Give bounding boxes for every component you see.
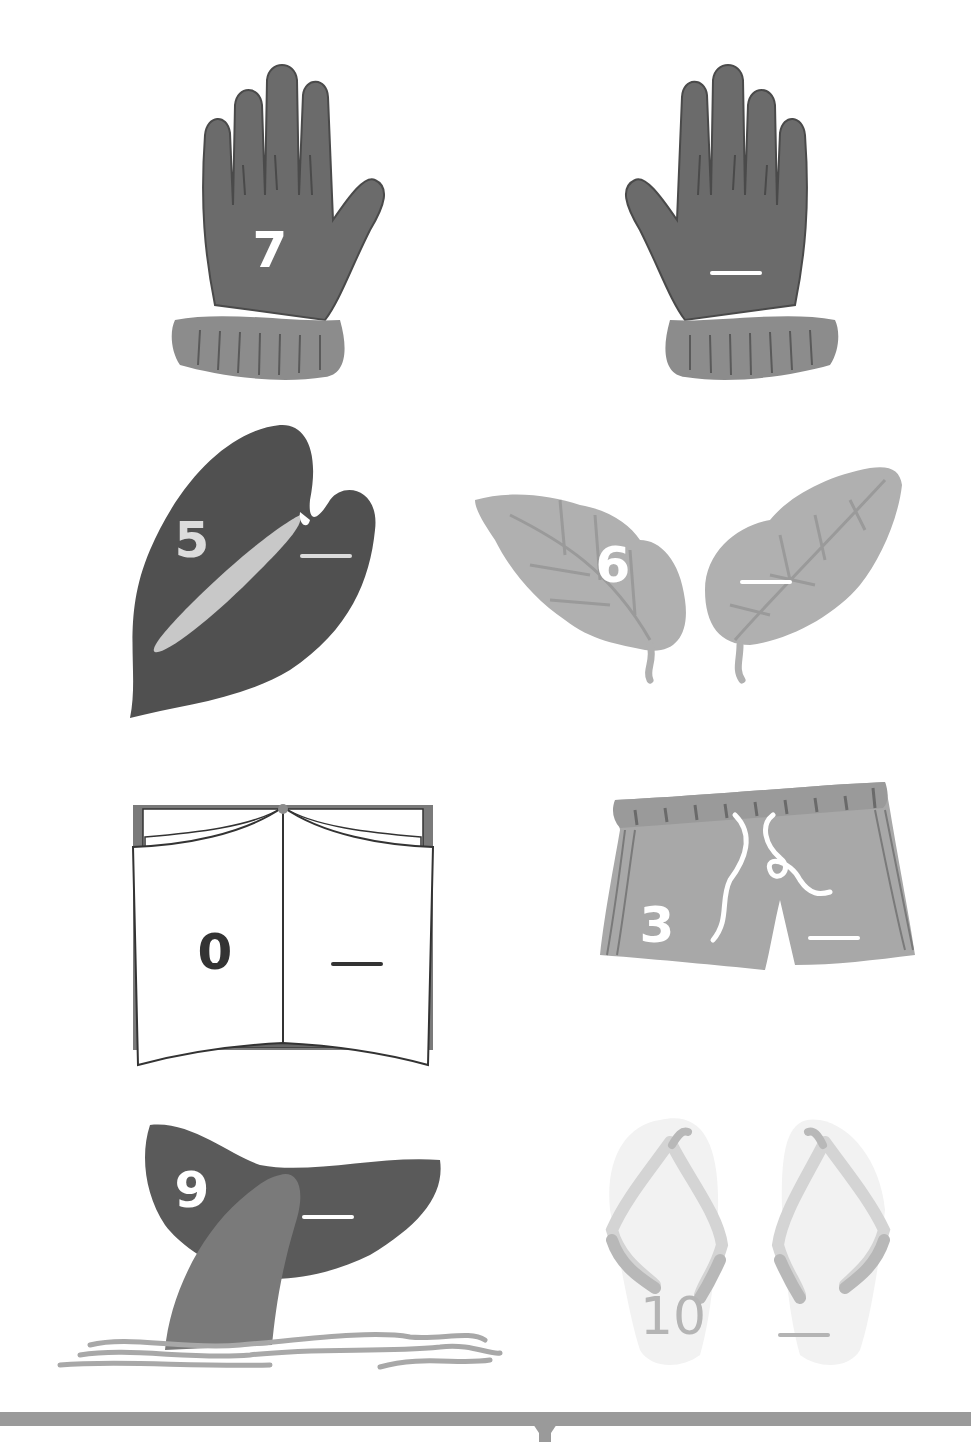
given-number: 3 bbox=[637, 900, 677, 950]
bottom-divider-bar bbox=[0, 1412, 971, 1426]
whale-tail-item: 9 bbox=[40, 1115, 500, 1375]
given-number: 0 bbox=[195, 927, 235, 977]
given-number: 9 bbox=[172, 1165, 212, 1215]
left-glove-icon bbox=[165, 55, 405, 385]
given-number: 5 bbox=[172, 515, 212, 565]
given-number: 6 bbox=[593, 540, 633, 590]
answer-blank[interactable] bbox=[778, 1333, 830, 1337]
shorts-item: 3 bbox=[595, 770, 925, 970]
answer-blank[interactable] bbox=[808, 936, 860, 940]
anthurium-leaf-icon bbox=[120, 420, 380, 720]
answer-blank[interactable] bbox=[331, 962, 383, 966]
leaf-pair-icon bbox=[470, 440, 910, 680]
whale-tail-icon bbox=[40, 1115, 500, 1375]
answer-blank[interactable] bbox=[300, 554, 352, 558]
glove-pair-item: 7 bbox=[165, 55, 845, 385]
flip-flops-item: 10 bbox=[600, 1100, 900, 1370]
right-glove-icon bbox=[605, 55, 845, 385]
open-book-icon bbox=[133, 805, 433, 1070]
anthurium-leaf-item: 5 bbox=[120, 420, 380, 720]
leaf-pair-item: 6 bbox=[470, 440, 910, 680]
given-number: 10 bbox=[638, 1290, 708, 1342]
bottom-divider-stem bbox=[539, 1426, 551, 1442]
answer-blank[interactable] bbox=[710, 271, 762, 275]
open-book-item: 0 bbox=[133, 805, 433, 1070]
answer-blank[interactable] bbox=[302, 1215, 354, 1219]
given-number: 7 bbox=[250, 225, 290, 275]
answer-blank[interactable] bbox=[740, 580, 792, 584]
